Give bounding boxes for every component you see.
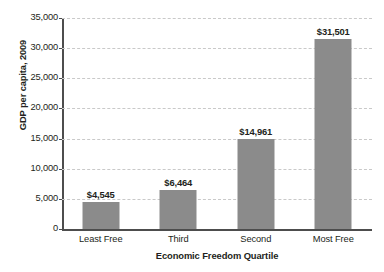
bar-value-label: $6,464	[164, 177, 192, 188]
y-axis-tick-label: 20,000	[0, 104, 58, 113]
x-axis-tick-label: Most Free	[313, 234, 354, 244]
bar-value-label: $14,961	[239, 126, 272, 137]
bar-slot: $6,464	[140, 18, 218, 229]
bar-slot: $4,545	[62, 18, 140, 229]
y-axis-tick-label: 35,000	[0, 13, 58, 22]
bar[interactable]	[315, 39, 352, 229]
x-axis-tick-label: Third	[168, 234, 189, 244]
x-axis-tick-labels: Least FreeThirdSecondMost Free	[62, 234, 372, 250]
y-axis-tick-label: 5,000	[0, 194, 58, 203]
y-axis-tick-label: 10,000	[0, 164, 58, 173]
x-axis-line	[62, 229, 372, 231]
x-axis-title: Economic Freedom Quartile	[62, 250, 372, 261]
x-axis-tick-label: Second	[240, 234, 271, 244]
x-axis-tick-label: Least Free	[79, 234, 122, 244]
bar-series: $4,545$6,464$14,961$31,501	[62, 18, 372, 229]
plot-area: $4,545$6,464$14,961$31,501	[62, 18, 372, 229]
y-axis-tick-label: 15,000	[0, 134, 58, 143]
bar[interactable]	[237, 139, 274, 229]
bar-chart: GDP per capita, 2009 05,00010,00015,0002…	[0, 0, 384, 272]
y-axis-tick-label: 30,000	[0, 43, 58, 52]
bar[interactable]	[160, 190, 197, 229]
y-axis-tick-mark	[59, 229, 62, 230]
bar-value-label: $31,501	[317, 26, 350, 37]
bar-slot: $14,961	[217, 18, 295, 229]
bar-value-label: $4,545	[87, 189, 115, 200]
y-axis-tick-label: 0	[0, 224, 58, 233]
bar-slot: $31,501	[295, 18, 373, 229]
y-axis-tick-labels: 05,00010,00015,00020,00025,00030,00035,0…	[0, 0, 58, 272]
y-axis-tick-label: 25,000	[0, 74, 58, 83]
bar[interactable]	[82, 202, 119, 229]
